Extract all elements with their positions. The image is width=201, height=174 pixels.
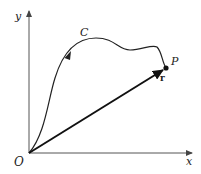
position-vector-diagram: O x y C P r [0, 0, 201, 174]
point-label: P [170, 55, 179, 68]
curve-label: C [80, 26, 89, 39]
x-axis-label: x [186, 155, 193, 168]
origin-label: O [14, 155, 24, 169]
y-axis-label: y [14, 10, 22, 23]
point-p [163, 65, 168, 70]
vector-label: r [160, 73, 165, 83]
curve-c [29, 38, 166, 153]
position-vector-r [29, 70, 163, 153]
